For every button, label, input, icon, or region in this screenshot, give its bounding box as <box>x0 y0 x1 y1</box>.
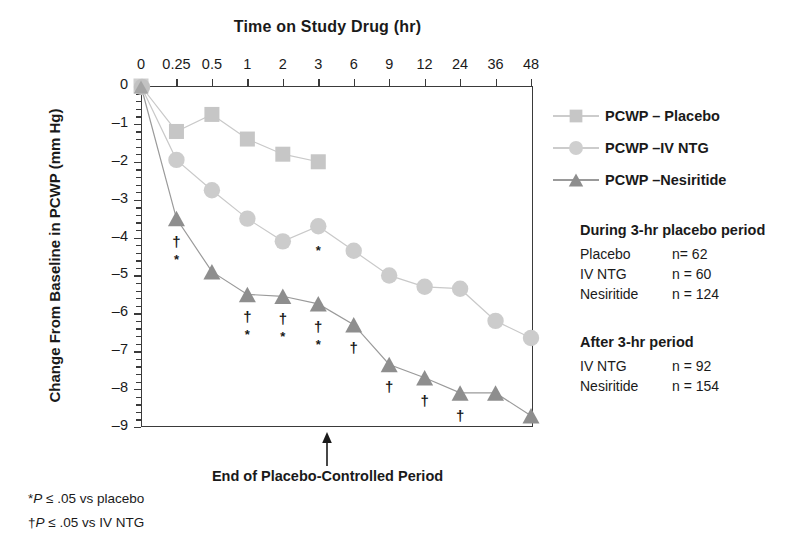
significance-star: * <box>275 330 291 343</box>
sample-size-row: Nesiritiden = 154 <box>580 376 805 396</box>
sample-size-value: n= 62 <box>672 244 782 264</box>
sample-size-group: Nesiritide <box>580 284 672 304</box>
sample-size-row: IV NTGn = 60 <box>580 264 805 284</box>
footnote-1: *P ≤ .05 vs placebo <box>28 487 144 511</box>
square-marker-icon <box>553 106 599 126</box>
significance-dagger: † <box>381 380 397 393</box>
legend-item-3[interactable]: PCWP –Nesiritide <box>553 164 803 196</box>
sample-size-group: IV NTG <box>580 356 672 376</box>
sample-size-group: Placebo <box>580 244 672 264</box>
significance-dagger: † <box>417 394 433 407</box>
significance-star: * <box>310 244 326 257</box>
sample-size-row: IV NTGn = 92 <box>580 356 805 376</box>
series-square <box>141 86 326 169</box>
significance-dagger: † <box>346 341 362 354</box>
legend: PCWP – PlaceboPCWP –IV NTGPCWP –Nesiriti… <box>553 100 803 196</box>
end-of-period-arrow <box>317 432 337 470</box>
significance-dagger: † <box>168 235 184 248</box>
origin-marker-cluster <box>134 79 151 96</box>
end-of-period-caption: End of Placebo-Controlled Period <box>120 468 535 484</box>
triangle-marker-icon <box>553 170 599 190</box>
sample-size-row: Placebon= 62 <box>580 244 805 264</box>
significance-star: * <box>239 328 255 341</box>
sample-size-value: n = 60 <box>672 264 782 284</box>
significance-dagger: † <box>275 312 291 325</box>
sample-size-value: n = 92 <box>672 356 782 376</box>
legend-item-label: PCWP –IV NTG <box>605 140 709 156</box>
series-circle <box>141 86 539 346</box>
legend-item-label: PCWP – Placebo <box>605 108 720 124</box>
significance-dagger: † <box>452 409 468 422</box>
sample-size-value: n = 154 <box>672 376 782 396</box>
legend-item-label: PCWP –Nesiritide <box>605 172 726 188</box>
sample-size-group: Nesiritide <box>580 376 672 396</box>
significance-star: * <box>310 338 326 351</box>
legend-item-1[interactable]: PCWP – Placebo <box>553 100 803 132</box>
sample-size-heading: During 3-hr placebo period <box>580 222 805 238</box>
footnote-2: †P ≤ .05 vs IV NTG <box>28 511 144 535</box>
sample-size-heading: After 3-hr period <box>580 334 805 350</box>
sample-size-value: n = 124 <box>672 284 782 304</box>
sample-size-block-1: During 3-hr placebo periodPlacebon= 62IV… <box>580 222 805 304</box>
footnotes: *P ≤ .05 vs placebo†P ≤ .05 vs IV NTG <box>28 487 144 535</box>
sample-size-block-2: After 3-hr periodIV NTGn = 92Nesiritiden… <box>580 334 805 396</box>
significance-dagger: † <box>239 310 255 323</box>
legend-item-2[interactable]: PCWP –IV NTG <box>553 132 803 164</box>
significance-dagger: † <box>310 320 326 333</box>
sample-size-row: Nesiritiden = 124 <box>580 284 805 304</box>
significance-star: * <box>168 253 184 266</box>
circle-marker-icon <box>553 138 599 158</box>
figure-canvas: Time on Study Drug (hr) Change From Base… <box>0 0 809 553</box>
sample-size-tables: During 3-hr placebo periodPlacebon= 62IV… <box>580 222 805 396</box>
series-triangle <box>141 86 540 423</box>
sample-size-group: IV NTG <box>580 264 672 284</box>
